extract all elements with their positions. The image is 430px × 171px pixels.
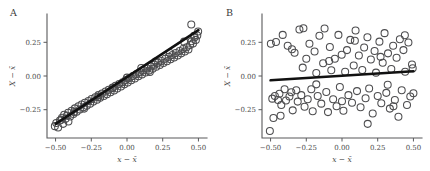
data-point — [301, 103, 308, 110]
data-point — [314, 92, 321, 99]
data-point — [304, 96, 311, 103]
y-axis-title: X − x̄ — [8, 65, 17, 87]
x-tick-label: −0.50 — [45, 144, 66, 152]
data-point — [296, 26, 303, 33]
y-tick-label: 0.00 — [25, 73, 41, 81]
data-point — [313, 70, 320, 77]
data-point — [398, 87, 405, 94]
data-point — [289, 107, 296, 114]
x-tick-label: 0.25 — [370, 144, 386, 152]
data-point — [318, 100, 325, 107]
data-point — [299, 64, 306, 71]
data-point — [313, 81, 320, 88]
data-point — [350, 62, 357, 69]
y-tick-label: 0.00 — [240, 73, 256, 81]
data-point — [266, 127, 273, 134]
data-point — [339, 98, 346, 105]
data-point — [384, 81, 391, 88]
x-axis-title: x − x̄ — [117, 155, 137, 164]
data-point — [357, 104, 364, 111]
data-point — [321, 25, 328, 32]
data-point — [311, 48, 318, 55]
y-tick-label: −0.25 — [20, 106, 41, 114]
data-point — [359, 66, 366, 73]
data-point — [367, 56, 374, 63]
x-tick-label: 0.25 — [155, 144, 171, 152]
data-point — [325, 109, 332, 116]
data-point — [316, 32, 323, 39]
data-point — [371, 48, 378, 55]
data-point — [309, 108, 316, 115]
data-point — [364, 120, 371, 127]
panel-b-plot: −0.50−0.250.000.250.500.250.00−0.25x − x… — [215, 0, 430, 171]
x-tick-label: 0.50 — [191, 144, 207, 152]
data-point — [405, 39, 412, 46]
x-tick-label: −0.25 — [296, 144, 317, 152]
data-point — [306, 40, 313, 47]
data-point — [401, 32, 408, 39]
x-tick-label: 0.00 — [334, 144, 350, 152]
data-point — [351, 37, 358, 44]
data-point — [381, 30, 388, 37]
x-axis-title: x − x̄ — [332, 155, 352, 164]
data-point — [364, 34, 371, 41]
data-point — [390, 42, 397, 49]
data-point — [395, 113, 402, 120]
data-point — [328, 67, 335, 74]
data-point — [270, 115, 277, 122]
data-point — [294, 98, 301, 105]
data-point — [355, 52, 362, 59]
x-tick-label: −0.25 — [81, 144, 102, 152]
data-point — [336, 84, 343, 91]
y-tick-label: 0.25 — [240, 39, 256, 47]
data-point — [281, 86, 288, 93]
data-point — [284, 42, 291, 49]
data-point — [352, 27, 359, 34]
panel-b: B −0.50−0.250.000.250.500.250.00−0.25x −… — [215, 0, 430, 171]
data-point — [326, 44, 333, 51]
data-point — [366, 85, 373, 92]
data-point — [277, 112, 284, 119]
data-point — [385, 50, 392, 57]
data-point — [376, 38, 383, 45]
x-tick-label: −0.50 — [260, 144, 281, 152]
data-point — [362, 95, 369, 102]
y-tick-label: 0.25 — [25, 39, 41, 47]
data-point — [404, 101, 411, 108]
data-point — [279, 31, 286, 38]
data-point — [377, 53, 384, 60]
data-point — [303, 55, 310, 62]
data-point — [349, 99, 356, 106]
data-point — [378, 100, 385, 107]
data-point — [383, 89, 390, 96]
data-point — [374, 92, 381, 99]
x-tick-label: 0.00 — [119, 144, 135, 152]
data-point — [354, 88, 361, 95]
data-point — [361, 44, 368, 51]
panel-a-plot: −0.50−0.250.000.250.500.250.00−0.25x − x… — [0, 0, 215, 171]
data-point — [323, 88, 330, 95]
data-point — [300, 25, 307, 32]
data-point — [330, 96, 337, 103]
data-point — [340, 107, 347, 114]
x-tick-label: 0.50 — [406, 144, 422, 152]
data-point — [345, 92, 352, 99]
data-point — [344, 47, 351, 54]
panel-a: A −0.50−0.250.000.250.500.250.00−0.25x −… — [0, 0, 215, 171]
regression-line — [56, 30, 199, 124]
data-point — [335, 31, 342, 38]
data-point — [393, 54, 400, 61]
y-axis-title: X − x̄ — [223, 65, 232, 87]
y-tick-label: −0.25 — [235, 106, 256, 114]
figure-root: A −0.50−0.250.000.250.500.250.00−0.25x −… — [0, 0, 430, 171]
data-point — [369, 110, 376, 117]
data-point — [400, 47, 407, 54]
data-point — [188, 21, 195, 28]
data-point — [298, 92, 305, 99]
